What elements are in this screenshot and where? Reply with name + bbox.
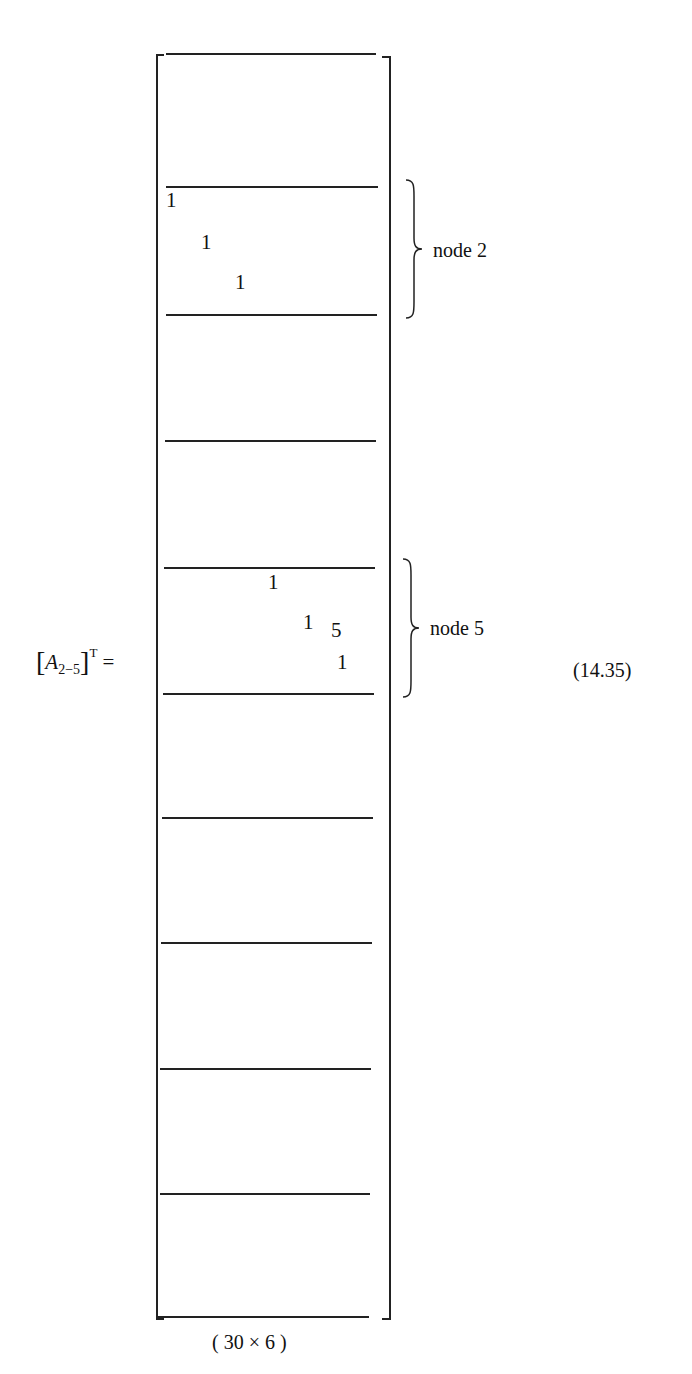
matrix-entry: 5 xyxy=(331,620,342,641)
transpose-superscript: T xyxy=(89,645,97,660)
matrix-subscript: 2−5 xyxy=(58,662,80,677)
block-separator xyxy=(166,186,378,188)
left-bracket-top-serif xyxy=(156,54,164,56)
right-bracket-top-serif xyxy=(382,56,390,58)
matrix-entry: 1 xyxy=(268,572,279,593)
matrix-entry: 1 xyxy=(337,652,348,673)
equation-number: (14.35) xyxy=(573,660,631,680)
block-separator xyxy=(163,693,374,695)
block-separator-bottom xyxy=(158,1316,369,1318)
node-2-label: node 2 xyxy=(433,240,487,260)
block-separator xyxy=(161,942,372,944)
right-bracket-vertical xyxy=(389,56,391,1320)
block-separator-top xyxy=(166,53,376,55)
matrix-entry: 1 xyxy=(235,272,246,293)
block-separator xyxy=(160,1068,371,1070)
right-brace-icon xyxy=(402,178,426,320)
block-separator xyxy=(165,440,376,442)
right-bracket-bottom-serif xyxy=(382,1318,390,1320)
matrix-entry: 1 xyxy=(201,232,212,253)
block-separator xyxy=(160,1193,370,1195)
equals-sign: = xyxy=(103,650,115,674)
left-bracket-bottom-serif xyxy=(156,1318,164,1320)
node-5-label: node 5 xyxy=(430,618,484,638)
dimension-label: ( 30 × 6 ) xyxy=(212,1332,287,1352)
block-separator xyxy=(162,817,373,819)
lhs-open-bracket: [ xyxy=(36,646,45,677)
right-brace-icon xyxy=(399,557,423,699)
block-separator xyxy=(164,567,375,569)
block-separator xyxy=(166,314,377,316)
equation-lhs: [A2−5]T = xyxy=(36,646,114,677)
matrix-entry: 1 xyxy=(166,190,177,211)
matrix-symbol: A xyxy=(45,650,58,674)
matrix-entry: 1 xyxy=(303,612,314,633)
lhs-close-bracket: ] xyxy=(80,646,89,677)
left-bracket-vertical xyxy=(156,54,158,1320)
